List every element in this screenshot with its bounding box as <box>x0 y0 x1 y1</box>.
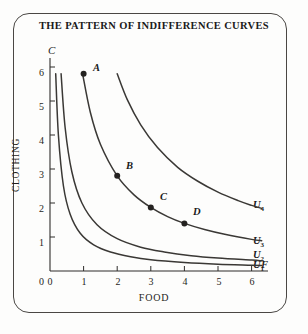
indifference-curve-u1 <box>56 74 262 266</box>
indifference-curve-u3 <box>83 74 262 241</box>
axes-group <box>50 58 268 271</box>
indifference-curve-figure: THE PATTERN OF INDIFFERENCE CURVES C F 6… <box>0 0 308 334</box>
ticks-group <box>50 67 252 271</box>
data-point-a <box>81 71 87 77</box>
indifference-curve-u2 <box>61 74 262 261</box>
data-point-c <box>148 204 154 210</box>
curves-group <box>56 74 262 266</box>
indifference-curve-u4 <box>117 74 261 209</box>
data-point-b <box>114 173 120 179</box>
plot-area <box>0 0 308 334</box>
points-group <box>81 71 188 227</box>
data-point-d <box>181 220 187 226</box>
